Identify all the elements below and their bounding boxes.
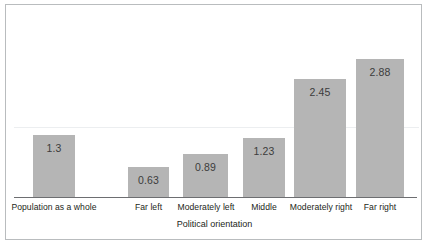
category-label: Population as a whole — [11, 202, 97, 212]
category-label: Far left — [123, 202, 174, 212]
category-label: Moderately right — [287, 202, 355, 212]
x-axis-title: Political orientation — [6, 219, 423, 229]
category-axis-line — [14, 197, 417, 198]
plot-area: Political orientation 1.3Population as a… — [6, 5, 423, 241]
bar-value-label: 1.23 — [243, 145, 285, 157]
bar-value-label: 1.3 — [33, 142, 75, 154]
bar[interactable] — [356, 59, 404, 197]
bar-value-label: 2.45 — [294, 86, 346, 98]
chart-frame: Political orientation 1.3Population as a… — [5, 4, 422, 240]
bar-value-label: 0.63 — [128, 174, 169, 186]
bar-value-label: 2.88 — [356, 66, 404, 78]
category-label: Moderately left — [172, 202, 240, 212]
bar-value-label: 0.89 — [183, 161, 228, 173]
category-label: Middle — [235, 202, 293, 212]
category-label: Far right — [354, 202, 406, 212]
